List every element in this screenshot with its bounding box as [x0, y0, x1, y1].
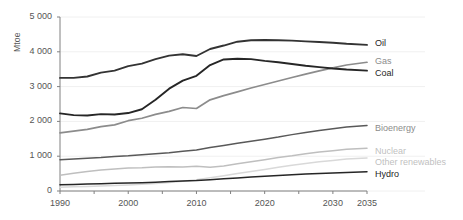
y-tick-label: 4 000	[8, 46, 52, 56]
series-line-other-renewables	[60, 158, 367, 187]
legend-label-other-renewables: Other renewables	[375, 157, 446, 167]
chart-container: Mtoe 5 0004 0003 0002 0001 0000 19902000…	[0, 0, 463, 220]
legend-label-nuclear: Nuclear	[375, 146, 406, 156]
series-line-hydro	[60, 172, 367, 185]
y-tick-label: 0	[8, 185, 52, 195]
legend-label-hydro: Hydro	[375, 169, 399, 179]
x-tick-label: 2020	[245, 198, 285, 208]
y-tick-label: 1 000	[8, 150, 52, 160]
x-tick-label: 2000	[108, 198, 148, 208]
plot-area	[0, 0, 463, 220]
x-tick-label: 2035	[347, 198, 387, 208]
legend-label-oil: Oil	[375, 38, 386, 48]
series-line-bioenergy	[60, 126, 367, 160]
legend-label-gas: Gas	[375, 56, 392, 66]
y-tick-label: 3 000	[8, 81, 52, 91]
gridlines	[60, 17, 425, 191]
series-line-oil	[60, 40, 367, 78]
legend-label-bioenergy: Bioenergy	[375, 123, 416, 133]
data-series	[60, 40, 367, 187]
x-tick-label: 1990	[40, 198, 80, 208]
legend-label-coal: Coal	[375, 68, 394, 78]
x-tick-label: 2010	[176, 198, 216, 208]
y-tick-label: 5 000	[8, 11, 52, 21]
y-tick-label: 2 000	[8, 115, 52, 125]
series-line-coal	[60, 59, 367, 116]
axis-lines	[60, 17, 367, 191]
